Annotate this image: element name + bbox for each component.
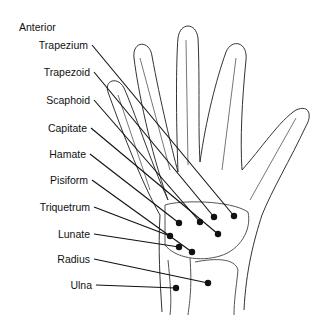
marker-dot-capitate — [215, 231, 221, 237]
marker-dot-scaphoid — [197, 219, 203, 225]
leader-line-trapezium — [92, 45, 234, 216]
marker-dot-ulna — [173, 285, 179, 291]
leader-line-scaphoid — [94, 100, 200, 222]
label-lunate: Lunate — [58, 228, 90, 240]
marker-dot-pisiform — [189, 249, 195, 255]
marker-dot-radius — [205, 280, 211, 286]
marker-dot-trapezium — [231, 213, 237, 219]
label-triquetrum: Triquetrum — [40, 201, 90, 213]
marker-dot-trapezoid — [211, 214, 217, 220]
leader-line-lunate — [94, 234, 179, 247]
label-pisiform: Pisiform — [50, 174, 88, 186]
leader-line-ulna — [96, 285, 176, 288]
thumb-outline — [242, 108, 309, 310]
label-radius: Radius — [57, 253, 90, 265]
carpal-region — [165, 202, 249, 259]
label-scaphoid: Scaphoid — [46, 94, 90, 106]
little-finger-outline — [107, 81, 168, 215]
marker-dot-lunate — [176, 244, 182, 250]
marker-dot-triquetrum — [167, 233, 173, 239]
leader-line-triquetrum — [94, 207, 170, 236]
hand-outline — [107, 26, 309, 315]
leader-line-trapezoid — [94, 72, 214, 217]
label-capitate: Capitate — [48, 122, 87, 134]
marker-dot-hamate — [176, 220, 182, 226]
label-trapezoid: Trapezoid — [44, 66, 90, 78]
index-finger-outline — [200, 44, 246, 170]
label-hamate: Hamate — [49, 148, 86, 160]
label-ulna: Ulna — [70, 279, 92, 291]
label-trapezium: Trapezium — [39, 39, 88, 51]
